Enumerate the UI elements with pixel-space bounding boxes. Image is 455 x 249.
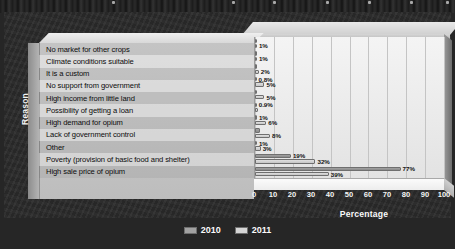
bar-group-9: 19%32%: [255, 152, 444, 165]
category-label-5: Possibility of getting a loan: [39, 104, 254, 116]
bar-group-3: 0.8%5%: [255, 75, 444, 88]
chart-legend: 20102011: [0, 225, 455, 235]
bar-2010-10[interactable]: [255, 167, 401, 171]
category-label-0: No market for other crops: [39, 43, 254, 55]
bar-2011-1[interactable]: [255, 57, 257, 61]
bar-2011-10[interactable]: [255, 172, 329, 176]
x-axis-ticks: 0102030405060708090100: [248, 190, 453, 202]
bar-slot: [255, 64, 444, 68]
bar-value-label: 5%: [266, 94, 275, 101]
legend-label: 2010: [201, 225, 221, 235]
bar-value-label: 3%: [263, 145, 272, 152]
bar-slot: 8%: [255, 134, 444, 138]
bar-group-8: 1%3%: [255, 140, 444, 153]
bar-2011-4[interactable]: [255, 95, 264, 99]
category-label-9: Poverty (provision of basic food and she…: [39, 153, 254, 165]
bar-series-container: 1%1%2%0.8%5%5%0.9%1%6%8%1%3%19%32%77%39%: [255, 37, 444, 178]
bar-slot: 1%: [255, 44, 444, 48]
bar-slot: 0.8%: [255, 77, 444, 81]
bar-slot: 6%: [255, 121, 444, 125]
bar-group-7: 8%: [255, 127, 444, 140]
x-tick-70: 70: [383, 190, 391, 199]
plot-floor: [254, 178, 444, 190]
x-tick-60: 60: [364, 190, 372, 199]
legend-item-2011[interactable]: 2011: [235, 225, 272, 235]
bar-slot: 1%: [255, 115, 444, 119]
bar-2011-2[interactable]: [255, 70, 259, 74]
bar-slot: 77%: [255, 167, 444, 171]
bar-2011-9[interactable]: [255, 159, 315, 163]
bar-2011-6[interactable]: [255, 121, 266, 125]
bar-2010-0[interactable]: [255, 39, 257, 43]
x-tick-30: 30: [307, 190, 315, 199]
bar-2011-5[interactable]: [255, 108, 258, 112]
bar-2010-8[interactable]: [255, 141, 257, 145]
bar-value-label: 6%: [268, 119, 277, 126]
category-label-10: High sale price of opium: [39, 166, 254, 178]
x-tick-0: 0: [252, 190, 256, 199]
category-label-7: Lack of government control: [39, 129, 254, 141]
bar-2011-0[interactable]: [255, 44, 257, 48]
bar-slot: 3%: [255, 146, 444, 150]
category-label-1: Climate conditions suitable: [39, 55, 254, 67]
legend-swatch-2011: [235, 227, 248, 234]
bar-value-label: 8%: [272, 132, 281, 139]
bar-value-label: 1%: [259, 55, 268, 62]
category-label-8: Other: [39, 141, 254, 153]
bar-2010-6[interactable]: [255, 115, 257, 119]
category-label-3: No support from government: [39, 80, 254, 92]
bar-group-4: 5%: [255, 88, 444, 101]
bar-group-2: 2%: [255, 63, 444, 76]
bar-slot: 32%: [255, 159, 444, 163]
bar-value-label: 5%: [266, 81, 275, 88]
chart-panel: No market for other cropsClimate conditi…: [4, 12, 451, 218]
y-axis-title: Reason: [20, 80, 30, 138]
category-label-2: It is a custom: [39, 68, 254, 80]
bar-slot: [255, 128, 444, 132]
plot-right-slab: [444, 34, 452, 190]
bar-2010-5[interactable]: [255, 103, 257, 107]
bar-2010-7[interactable]: [255, 128, 260, 132]
x-tick-10: 10: [269, 190, 277, 199]
bar-slot: [255, 90, 444, 94]
bar-slot: [255, 39, 444, 43]
bar-2011-3[interactable]: [255, 82, 264, 86]
label-block-top: [39, 33, 264, 43]
x-tick-20: 20: [288, 190, 296, 199]
bar-slot: 1%: [255, 141, 444, 145]
category-label-list: No market for other cropsClimate conditi…: [39, 43, 254, 178]
x-tick-100: 100: [438, 190, 451, 199]
bar-2011-8[interactable]: [255, 146, 261, 150]
x-tick-90: 90: [421, 190, 429, 199]
bar-group-5: 0.9%: [255, 101, 444, 114]
bar-2010-4[interactable]: [255, 90, 257, 94]
bar-group-0: 1%: [255, 37, 444, 50]
legend-item-2010[interactable]: 2010: [184, 225, 221, 235]
bar-slot: 5%: [255, 95, 444, 99]
bar-2010-1[interactable]: [255, 51, 257, 55]
plot-area: 1%1%2%0.8%5%5%0.9%1%6%8%1%3%19%32%77%39%: [254, 37, 444, 178]
category-label-6: High demand for opium: [39, 117, 254, 129]
bar-group-6: 1%6%: [255, 114, 444, 127]
bar-value-label: 2%: [261, 68, 270, 75]
x-axis-title: Percentage: [304, 209, 424, 219]
legend-swatch-2010: [184, 227, 197, 234]
bar-2011-7[interactable]: [255, 134, 270, 138]
x-tick-40: 40: [326, 190, 334, 199]
bar-value-label: 39%: [331, 171, 343, 178]
bar-slot: 2%: [255, 70, 444, 74]
bar-slot: 5%: [255, 82, 444, 86]
bar-slot: [255, 108, 444, 112]
bar-2010-2[interactable]: [255, 64, 257, 68]
bar-2010-9[interactable]: [255, 154, 291, 158]
legend-label: 2011: [252, 225, 272, 235]
chart-screenshot: No market for other cropsClimate conditi…: [0, 0, 455, 249]
bar-slot: [255, 51, 444, 55]
category-label-4: High income from little land: [39, 92, 254, 104]
bar-slot: 1%: [255, 57, 444, 61]
bar-value-label: 32%: [317, 158, 329, 165]
bar-slot: 0.9%: [255, 103, 444, 107]
x-tick-50: 50: [345, 190, 353, 199]
x-tick-80: 80: [402, 190, 410, 199]
bar-2010-3[interactable]: [255, 77, 257, 81]
